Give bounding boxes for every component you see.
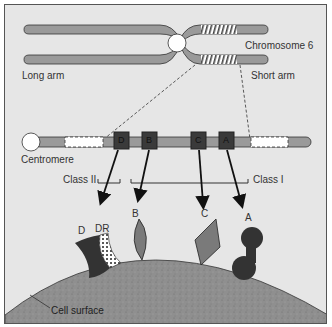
arrow-b: [139, 150, 149, 196]
expanded-chromosome: [22, 132, 311, 151]
arrow-d: [102, 150, 118, 199]
long-arm-label: Long arm: [22, 71, 64, 81]
centromere-circle: [22, 133, 40, 151]
short-arm-label: Short arm: [251, 71, 295, 81]
arrow-c: [199, 150, 203, 203]
chromosome-title: Chromosome 6: [245, 41, 313, 51]
molecule-b: [134, 219, 146, 260]
arrow-a: [227, 150, 241, 202]
zoom-line-left: [104, 65, 195, 139]
gene-label-d: D: [118, 136, 125, 145]
diagram-frame: Chromosome 6 Long arm Short arm Centrome…: [4, 4, 327, 324]
molecule-label-a: A: [245, 213, 252, 223]
cell-surface-label: Cell surface: [51, 306, 104, 316]
gene-label-b: B: [146, 136, 152, 145]
centromere-label: Centromere: [21, 155, 74, 165]
centromere-top: [168, 34, 186, 52]
gene-label-a: A: [223, 136, 229, 145]
class-i-label: Class I: [253, 175, 284, 185]
molecule-label-dr: DR: [95, 224, 109, 234]
gene-label-c: C: [195, 136, 202, 145]
class-i-bracket: [131, 179, 248, 183]
molecule-label-b: B: [132, 209, 139, 219]
molecule-label-d: D: [78, 226, 85, 236]
hla-region-band-lower: [201, 55, 237, 64]
hla-region-band-upper: [201, 25, 237, 34]
zoom-line-right: [240, 65, 250, 139]
class-ii-label: Class II: [63, 175, 96, 185]
molecule-a: [232, 227, 263, 280]
chromosome-6: [24, 25, 268, 64]
molecule-label-c: C: [201, 209, 208, 219]
molecule-c: [195, 219, 220, 265]
